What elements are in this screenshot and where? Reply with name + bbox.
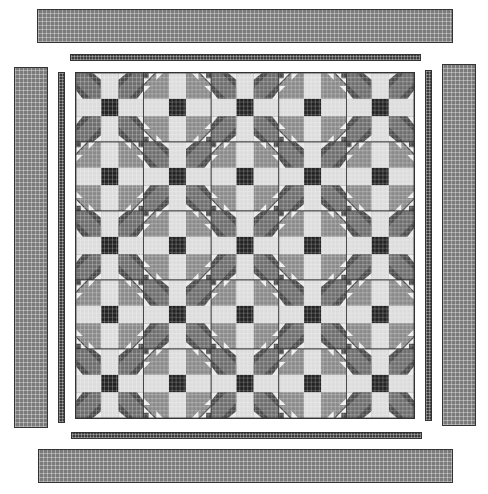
quilt-center: [75, 72, 415, 419]
outer-border-left: [14, 67, 48, 428]
quilt-block-a: [346, 73, 414, 142]
inner-border-top: [70, 54, 421, 61]
quilt-block-a: [76, 73, 144, 142]
quilt-svg: [76, 73, 414, 418]
outer-border-bottom: [38, 449, 453, 483]
quilt-block-b: [76, 280, 144, 349]
quilt-block-a: [279, 142, 347, 211]
quilt-block-a: [211, 211, 279, 280]
quilt-block-b: [346, 142, 414, 211]
quilt-block-b: [144, 211, 212, 280]
quilt-block-b: [76, 142, 144, 211]
quilt-block-b: [279, 73, 347, 142]
quilt-block-a: [211, 73, 279, 142]
inner-border-left: [58, 72, 65, 423]
inner-border-bottom: [71, 432, 422, 439]
outer-border-right: [442, 64, 476, 426]
quilt-block-a: [346, 211, 414, 280]
quilt-block-a: [211, 349, 279, 418]
quilt-block-b: [279, 211, 347, 280]
quilt-block-b: [144, 349, 212, 418]
quilt-block-b: [144, 73, 212, 142]
quilt-block-b: [346, 280, 414, 349]
quilt-block-a: [144, 280, 212, 349]
quilt-block-a: [76, 211, 144, 280]
quilt-block-a: [76, 349, 144, 418]
quilt-block-b: [279, 349, 347, 418]
quilt-block-b: [211, 280, 279, 349]
inner-border-right: [425, 70, 432, 421]
quilt-block-b: [211, 142, 279, 211]
quilt-block-a: [346, 349, 414, 418]
quilt-block-a: [144, 142, 212, 211]
quilt-block-a: [279, 280, 347, 349]
outer-border-top: [37, 9, 453, 43]
